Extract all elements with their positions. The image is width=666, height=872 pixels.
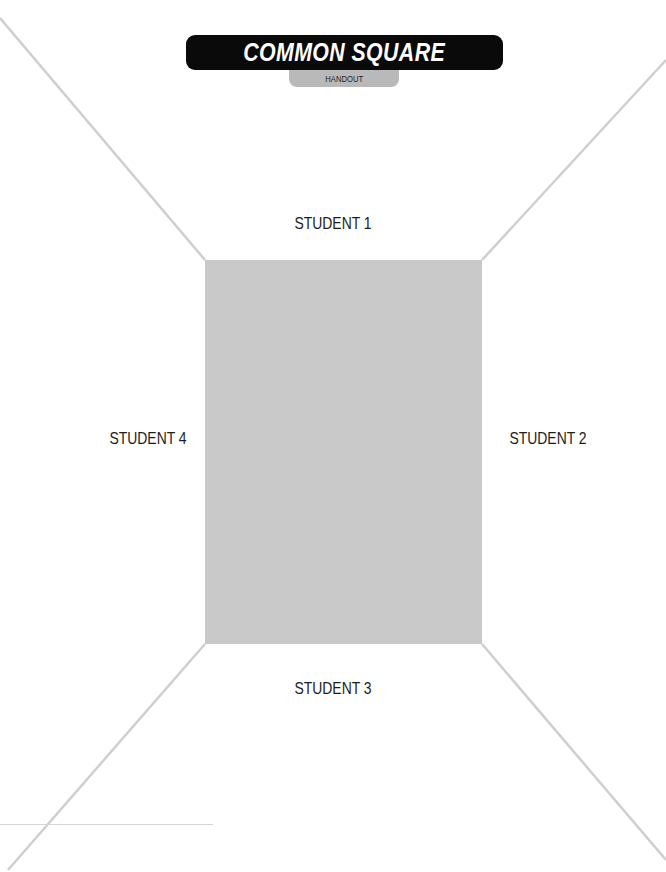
footer-rule [0, 824, 213, 825]
diagonal-bottom-right [482, 644, 666, 860]
diagonal-bottom-left [8, 644, 205, 870]
student-3-label: STUDENT 3 [292, 679, 374, 699]
diagonal-top-right [482, 60, 666, 260]
diagonal-top-left [0, 18, 205, 260]
handout-label: HANDOUT [325, 74, 363, 87]
page-title: COMMON SQUARE [244, 37, 446, 68]
title-banner: COMMON SQUARE [186, 35, 503, 70]
student-2-label: STUDENT 2 [507, 429, 589, 449]
student-1-label: STUDENT 1 [292, 214, 374, 234]
student-4-label: STUDENT 4 [107, 429, 189, 449]
common-square-center [205, 260, 482, 644]
